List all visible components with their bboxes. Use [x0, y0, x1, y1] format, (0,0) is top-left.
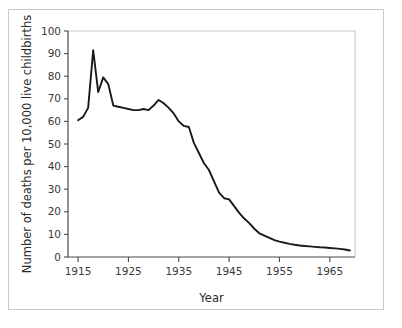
y-axis-tick-label: 20	[48, 205, 61, 217]
y-axis-tick-label: 10	[48, 228, 61, 240]
x-axis-title: Year	[198, 291, 224, 305]
y-axis-title: Number of deaths per 10,000 live childbi…	[20, 15, 34, 273]
data-series-line	[78, 50, 350, 250]
maternal-mortality-line-chart: 0102030405060708090100191519251935194519…	[0, 0, 402, 328]
y-axis-tick-label: 90	[48, 47, 61, 59]
y-axis-tick-label: 70	[48, 92, 61, 104]
x-axis-tick-label: 1935	[165, 265, 192, 277]
y-axis-tick-label: 60	[48, 115, 61, 127]
plot-axes-left-bottom	[68, 31, 355, 257]
y-axis-tick-label: 50	[48, 138, 61, 150]
x-axis-tick-label: 1955	[266, 265, 293, 277]
plot-frame-top-right	[68, 31, 355, 257]
x-axis-tick-label: 1915	[65, 265, 92, 277]
plot-area: 0102030405060708090100191519251935194519…	[20, 15, 355, 305]
y-axis-tick-label: 40	[48, 160, 61, 172]
x-axis-tick-label: 1965	[316, 265, 343, 277]
y-axis-tick-label: 30	[48, 183, 61, 195]
chart-figure: 0102030405060708090100191519251935194519…	[0, 0, 402, 328]
y-axis-tick-label: 100	[41, 25, 61, 37]
x-axis-tick-label: 1925	[115, 265, 142, 277]
y-axis-tick-label: 0	[54, 251, 61, 263]
x-axis-tick-label: 1945	[216, 265, 243, 277]
y-axis-tick-label: 80	[48, 70, 61, 82]
